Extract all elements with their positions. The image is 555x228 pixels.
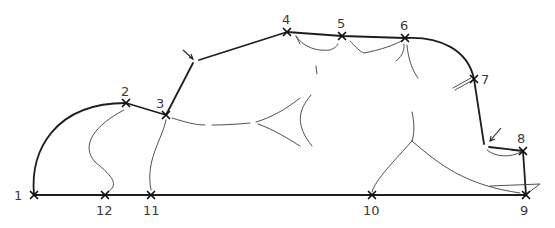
arrow-icon: [490, 128, 501, 141]
landmark-label-2: 2: [121, 84, 129, 99]
contour-lines: [89, 36, 540, 193]
landmark-label-7: 7: [481, 72, 489, 87]
landmark-label-10: 10: [363, 203, 380, 218]
landmark-markers: [31, 29, 530, 199]
landmark-labels: 123456789101112: [14, 12, 528, 218]
landmark-label-6: 6: [400, 18, 408, 33]
landmark-label-3: 3: [156, 96, 164, 111]
landmark-label-9: 9: [520, 203, 528, 218]
diagram-canvas: 123456789101112: [0, 0, 555, 228]
landmark-label-8: 8: [517, 131, 525, 146]
segment-3-4: [166, 32, 287, 115]
landmark-label-1: 1: [14, 188, 22, 203]
landmark-label-4: 4: [282, 12, 290, 27]
arc-6-7: [405, 38, 474, 79]
landmark-label-5: 5: [337, 16, 345, 31]
pointer-arrows: [183, 50, 501, 141]
landmark-label-11: 11: [143, 203, 160, 218]
landmark-label-12: 12: [96, 203, 113, 218]
